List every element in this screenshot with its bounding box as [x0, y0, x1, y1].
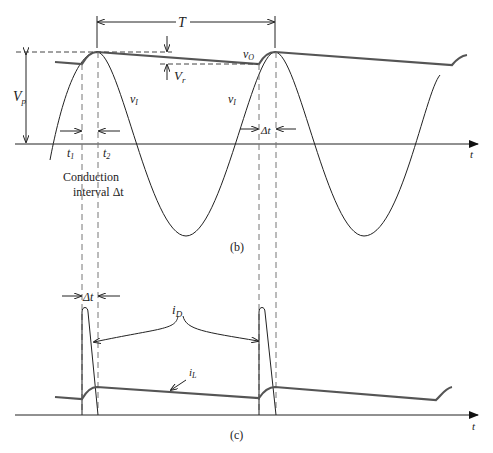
diode-current-pointer-left: [94, 316, 178, 342]
output-voltage-label: vO: [243, 47, 254, 62]
panel-c: t Δt iD iL (c): [15, 290, 478, 442]
diode-current-pulse-1: [82, 308, 98, 416]
load-current-label: iL: [189, 366, 197, 380]
delta-t-label-c: Δt: [82, 290, 94, 304]
vp-label: Vp: [13, 89, 27, 106]
diode-current-pointer-right: [183, 316, 258, 341]
axis-label-t-c: t: [472, 420, 476, 432]
panel-c-caption: (c): [230, 428, 243, 442]
diode-current-label: iD: [172, 302, 183, 319]
panel-b-caption: (b): [230, 240, 244, 254]
conduction-interval-line1: Conduction: [63, 170, 119, 184]
output-voltage-curve: [55, 52, 467, 65]
load-current-curve: [55, 387, 452, 400]
vr-label: Vr: [174, 68, 186, 85]
input-voltage-label-2: vI: [228, 92, 236, 107]
input-voltage-label-1: vI: [130, 92, 138, 107]
axis-label-t-b: t: [470, 148, 474, 160]
delta-t-label-b: Δt: [260, 124, 271, 136]
rectifier-waveform-diagram: t Vp T Vr vO vI vI t1 t2 Conductio: [0, 0, 493, 453]
diode-current-pulse-2: [259, 308, 276, 416]
panel-b: t Vp T Vr vO vI vI t1 t2 Conductio: [13, 15, 478, 254]
t1-label: t1: [67, 146, 74, 161]
conduction-interval-line2: interval Δt: [73, 185, 124, 199]
conduction-guides: [82, 52, 276, 410]
load-current-pointer: [171, 380, 186, 390]
period-label: T: [178, 15, 187, 30]
t2-label: t2: [103, 146, 110, 161]
